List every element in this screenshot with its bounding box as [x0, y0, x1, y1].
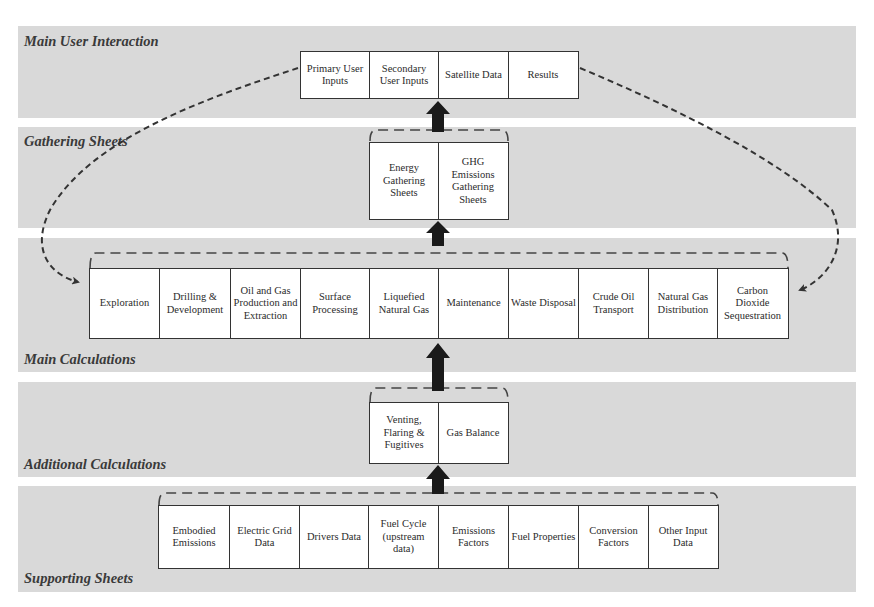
- box-surface-processing[interactable]: Surface Processing: [301, 269, 370, 338]
- box-drilling-development[interactable]: Drilling & Development: [160, 269, 231, 338]
- band-label: Additional Calculations: [24, 456, 166, 473]
- box-venting-flaring-fugitives[interactable]: Venting, Flaring & Fugitives: [370, 403, 439, 463]
- box-satellite-data[interactable]: Satellite Data: [439, 52, 509, 98]
- diagram-canvas: Main User Interaction Gathering Sheets M…: [0, 0, 874, 607]
- box-gas-balance[interactable]: Gas Balance: [439, 403, 507, 463]
- main-calculations-row: Exploration Drilling & Development Oil a…: [89, 268, 789, 339]
- box-liquefied-natural-gas[interactable]: Liquefied Natural Gas: [370, 269, 439, 338]
- box-ghg-emissions-gathering-sheets[interactable]: GHG Emissions Gathering Sheets: [439, 143, 507, 219]
- box-energy-gathering-sheets[interactable]: Energy Gathering Sheets: [370, 143, 439, 219]
- box-conversion-factors[interactable]: Conversion Factors: [579, 506, 649, 568]
- box-emissions-factors[interactable]: Emissions Factors: [439, 506, 509, 568]
- box-carbon-dioxide-sequestration[interactable]: Carbon Dioxide Sequestration: [718, 269, 787, 338]
- box-fuel-cycle[interactable]: Fuel Cycle (upstream data): [369, 506, 439, 568]
- box-other-input-data[interactable]: Other Input Data: [649, 506, 717, 568]
- box-maintenance[interactable]: Maintenance: [439, 269, 509, 338]
- band-label: Main User Interaction: [24, 33, 159, 50]
- box-exploration[interactable]: Exploration: [90, 269, 160, 338]
- box-primary-user-inputs[interactable]: Primary User Inputs: [301, 52, 370, 98]
- gathering-sheets-row: Energy Gathering Sheets GHG Emissions Ga…: [369, 142, 509, 220]
- box-natural-gas-distribution[interactable]: Natural Gas Distribution: [649, 269, 718, 338]
- box-oil-gas-production[interactable]: Oil and Gas Production and Extraction: [231, 269, 301, 338]
- band-label: Supporting Sheets: [24, 570, 133, 587]
- box-results[interactable]: Results: [509, 52, 577, 98]
- band-label: Main Calculations: [24, 351, 136, 368]
- box-fuel-properties[interactable]: Fuel Properties: [509, 506, 579, 568]
- box-electric-grid-data[interactable]: Electric Grid Data: [230, 506, 300, 568]
- box-embodied-emissions[interactable]: Embodied Emissions: [159, 506, 230, 568]
- band-label: Gathering Sheets: [24, 133, 128, 150]
- additional-calculations-row: Venting, Flaring & Fugitives Gas Balance: [369, 402, 509, 464]
- box-waste-disposal[interactable]: Waste Disposal: [509, 269, 579, 338]
- user-interaction-row: Primary User Inputs Secondary User Input…: [300, 51, 579, 99]
- box-drivers-data[interactable]: Drivers Data: [300, 506, 369, 568]
- box-crude-oil-transport[interactable]: Crude Oil Transport: [579, 269, 649, 338]
- box-secondary-user-inputs[interactable]: Secondary User Inputs: [370, 52, 439, 98]
- supporting-sheets-row: Embodied Emissions Electric Grid Data Dr…: [158, 505, 719, 569]
